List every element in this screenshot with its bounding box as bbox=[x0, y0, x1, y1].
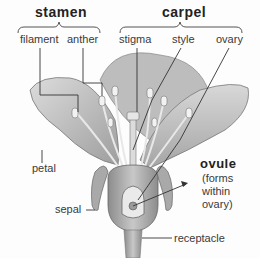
label-stigma: stigma bbox=[119, 33, 151, 45]
stigma-structure bbox=[127, 112, 139, 120]
ovule-note-line-3: ovary) bbox=[202, 198, 233, 211]
label-anther: anther bbox=[67, 33, 98, 45]
label-sepal: sepal bbox=[55, 203, 81, 215]
ovule-note-line-1: (forms bbox=[202, 172, 233, 185]
right-sepal bbox=[156, 166, 173, 210]
stamen-heading: stamen bbox=[35, 4, 87, 20]
left-sepal bbox=[91, 166, 108, 210]
carpel-brace bbox=[120, 22, 242, 33]
label-ovule: ovule bbox=[200, 156, 236, 171]
carpel-heading: carpel bbox=[162, 4, 206, 20]
label-ovary: ovary bbox=[216, 33, 243, 45]
ovule-note: (forms within ovary) bbox=[202, 172, 233, 211]
label-petal: petal bbox=[32, 162, 56, 174]
ovule-note-line-2: within bbox=[202, 185, 233, 198]
left-petal bbox=[30, 78, 119, 166]
label-filament: filament bbox=[20, 33, 59, 45]
stamen-brace bbox=[18, 22, 100, 33]
label-style: style bbox=[172, 33, 195, 45]
receptacle-structure bbox=[124, 230, 142, 258]
label-receptacle: receptacle bbox=[174, 232, 225, 244]
